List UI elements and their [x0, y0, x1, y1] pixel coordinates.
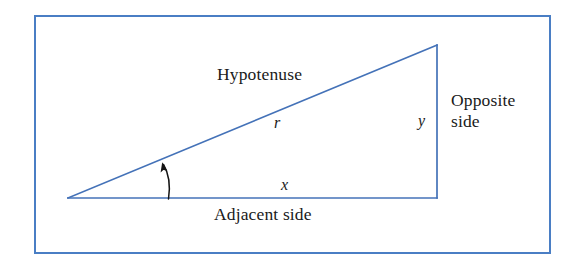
- x-variable-label: x: [281, 176, 288, 193]
- opposite-side-label-line2: side: [451, 111, 515, 132]
- adjacent-side-label: Adjacent side: [214, 205, 312, 224]
- opposite-side-label: Opposite side: [451, 90, 515, 131]
- hypotenuse-label: Hypotenuse: [217, 65, 302, 84]
- triangle-diagram-svg: [0, 0, 581, 271]
- figure-container: Hypotenuse Adjacent side Opposite side r…: [0, 0, 581, 271]
- opposite-side-label-line1: Opposite: [451, 90, 515, 111]
- y-variable-label: y: [418, 112, 425, 129]
- radius-variable-label: r: [274, 114, 280, 131]
